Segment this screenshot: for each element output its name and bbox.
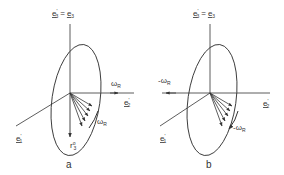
axis-e2-label: e'2 [124,97,130,108]
omega-axis-label: -ωR [158,76,171,86]
precession-ellipse [180,41,243,159]
axis-e2-label: e'2 [263,98,269,109]
panel-b: e'3=e3 -ωR e'2 -ωR e'1 b [158,8,270,170]
axis-e3-label: e'3=e3 [193,8,215,19]
precession-ellipse [44,41,107,159]
axis-e1-label: e'1 [16,133,22,144]
diagram-canvas: e'3=e3 ωR e'2 ωR e'1 ro3 a [0,0,284,175]
axis-e1 [16,93,70,126]
omega-arc-label: ωR [97,117,107,127]
axis-e1-label: e'1 [160,133,166,144]
vector-fan [210,93,232,126]
panel-a-caption: a [66,159,72,170]
panel-a: e'3=e3 ωR e'2 ωR e'1 ro3 a [16,8,134,170]
omega-arc-label: -ωR [233,123,246,133]
omega-axis-label: ωR [111,79,121,89]
r3-label: ro3 [70,140,76,151]
axis-e3-label: e'3=e3 [52,8,74,19]
panel-b-caption: b [206,159,212,170]
axis-e1 [160,93,210,126]
vector-fan [70,93,92,126]
